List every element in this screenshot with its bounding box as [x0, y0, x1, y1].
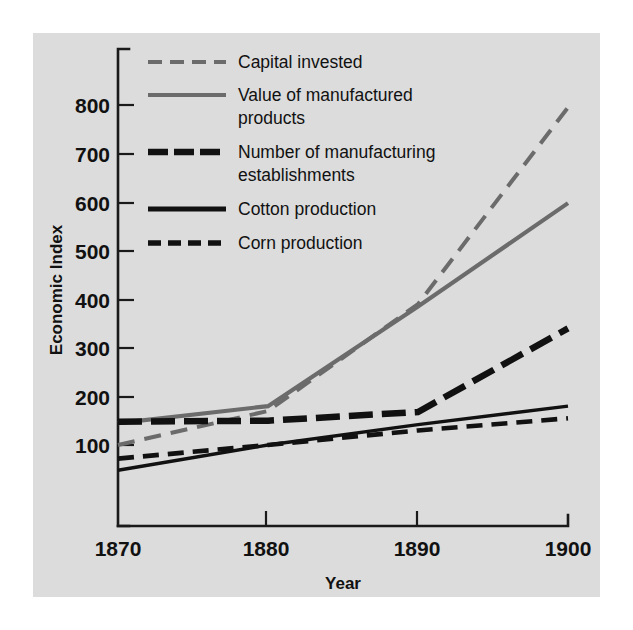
y-tick-label-500: 500 [75, 240, 110, 263]
legend-label-cotton-production: Cotton production [238, 199, 376, 219]
legend-label-value-manufactured-line1: Value of manufactured [238, 85, 413, 105]
line-chart: 800 700 600 500 400 300 200 100 1870 188… [0, 0, 633, 630]
legend-label-num-establishments-line2: establishments [238, 165, 355, 185]
y-tick-label-200: 200 [75, 386, 110, 409]
y-ticks-group: 800 700 600 500 400 300 200 100 [75, 94, 134, 457]
x-axis-line [118, 515, 568, 526]
legend-entry-corn-production[interactable]: Corn production [148, 233, 363, 253]
y-tick-label-100: 100 [75, 434, 110, 457]
legend-entry-capital-invested[interactable]: Capital invested [148, 52, 363, 72]
x-tick-label-1870: 1870 [95, 537, 142, 560]
series-line-number-of-manufacturing-establishments [118, 328, 568, 421]
legend-label-corn-production: Corn production [238, 233, 363, 253]
legend-entry-num-establishments[interactable]: Number of manufacturing establishments [148, 142, 435, 185]
y-tick-label-300: 300 [75, 337, 110, 360]
y-tick-label-400: 400 [75, 289, 110, 312]
x-ticks-group: 1870 1880 1890 1900 [95, 511, 592, 560]
legend-entry-value-manufactured[interactable]: Value of manufactured products [148, 85, 413, 128]
x-tick-label-1880: 1880 [243, 537, 290, 560]
legend-label-num-establishments-line1: Number of manufacturing [238, 142, 435, 162]
legend-label-capital-invested: Capital invested [238, 52, 363, 72]
y-tick-label-600: 600 [75, 192, 110, 215]
legend-entry-cotton-production[interactable]: Cotton production [148, 199, 376, 219]
y-tick-label-700: 700 [75, 143, 110, 166]
y-axis-title: Economic Index [47, 224, 66, 355]
axes-group [118, 49, 568, 526]
x-tick-label-1900: 1900 [545, 537, 592, 560]
y-axis-line [118, 49, 129, 526]
chart-legend: Capital invested Value of manufactured p… [148, 52, 435, 253]
x-tick-label-1890: 1890 [394, 537, 441, 560]
legend-label-value-manufactured-line2: products [238, 108, 305, 128]
x-axis-title: Year [325, 574, 361, 593]
y-tick-label-800: 800 [75, 94, 110, 117]
figure-container: 800 700 600 500 400 300 200 100 1870 188… [0, 0, 633, 630]
